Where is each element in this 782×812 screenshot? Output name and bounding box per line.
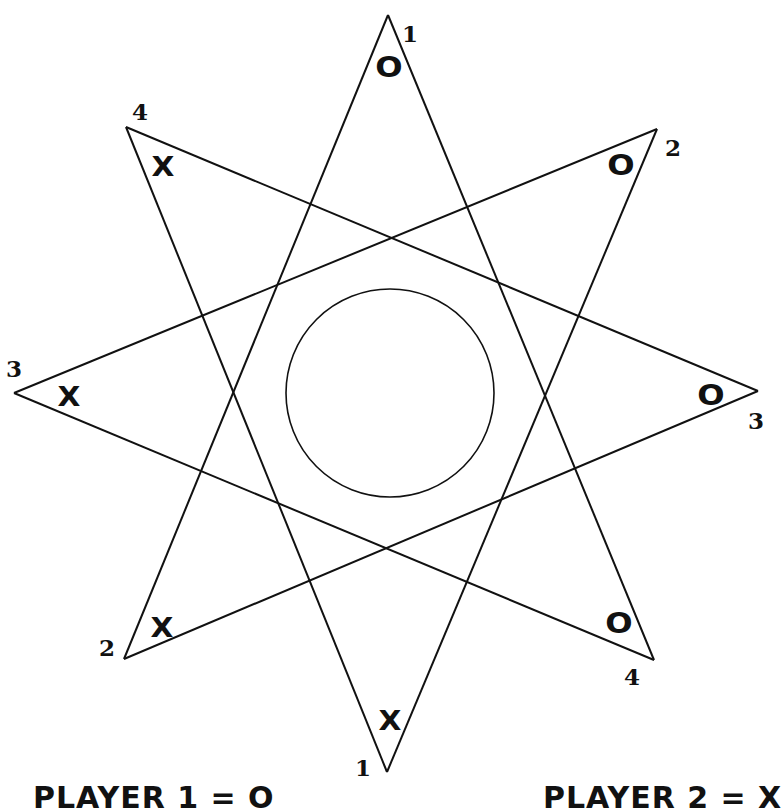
tip-number-top-left: 4 (132, 100, 148, 123)
tip-number-bottom-right: 4 (624, 665, 640, 688)
tip-mark-bottom[interactable]: X (379, 707, 402, 734)
star-line (14, 393, 654, 660)
tip-mark-bottom-left[interactable]: X (151, 614, 174, 641)
legend-player-2: PLAYER 2 = X (543, 783, 782, 812)
tip-number-bottom-left: 2 (99, 636, 115, 659)
tip-mark-top[interactable]: O (375, 54, 402, 82)
star-line (14, 129, 657, 393)
tip-number-bottom: 1 (355, 756, 371, 779)
tip-number-right: 3 (748, 409, 764, 432)
tip-number-top-right: 2 (665, 136, 681, 159)
tip-mark-top-left[interactable]: X (152, 153, 175, 180)
star-line (388, 15, 654, 660)
tip-mark-left[interactable]: X (58, 383, 81, 410)
tip-mark-right[interactable]: O (697, 382, 724, 410)
star-line (124, 15, 388, 659)
star-line (124, 391, 758, 659)
tip-number-left: 3 (6, 357, 22, 380)
legend-player-1: PLAYER 1 = O (33, 783, 275, 812)
center-circle[interactable] (286, 289, 494, 497)
tip-number-top: 1 (402, 22, 418, 45)
star-line (126, 127, 387, 772)
star-line (126, 127, 758, 391)
tip-mark-bottom-right[interactable]: O (605, 610, 632, 638)
tip-mark-top-right[interactable]: O (607, 152, 634, 180)
